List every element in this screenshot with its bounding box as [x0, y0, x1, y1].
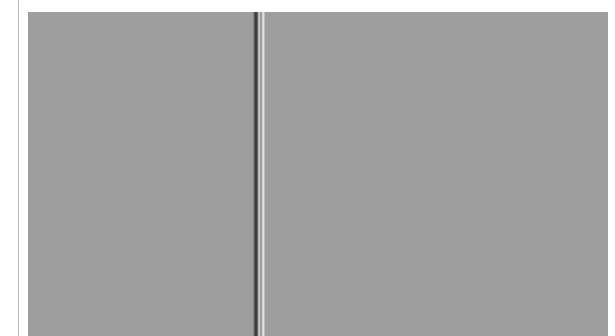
page-gutter-rule: [18, 0, 19, 336]
visible-light-band-highlight: [262, 12, 265, 336]
visible-light-band: [253, 12, 260, 336]
spectrum-panel-background: [28, 12, 608, 336]
spectrum-panel: [28, 12, 608, 336]
electromagnetic-spectrum-figure: [0, 0, 615, 336]
